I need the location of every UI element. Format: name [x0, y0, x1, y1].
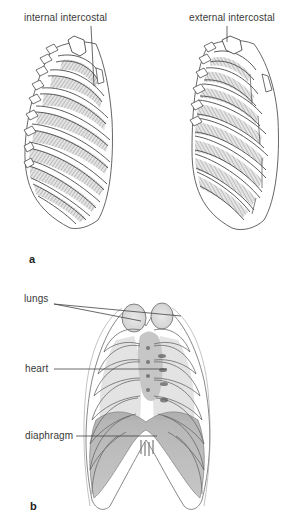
label-heart: heart [25, 364, 48, 374]
rib-cage-internal-intercostal [24, 36, 112, 229]
label-internal-intercostal: internal intercostal [24, 13, 107, 23]
label-external-intercostal: external intercostal [189, 13, 275, 23]
rib-cage-external-intercostal [190, 36, 278, 230]
panel-letter-b: b [30, 501, 37, 512]
anatomy-illustration [0, 0, 292, 529]
thorax-anterior-view [84, 303, 210, 509]
panel-letter-a: a [29, 254, 35, 265]
label-lungs: lungs [24, 294, 48, 304]
label-diaphragm: diaphragm [25, 431, 73, 441]
